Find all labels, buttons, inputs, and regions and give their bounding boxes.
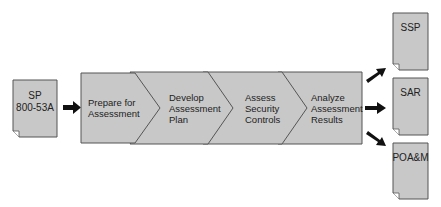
step-2-line-2: Assessment xyxy=(169,103,221,114)
output-poam-label: POA&M xyxy=(391,152,430,164)
step-4-line-1: Analyze xyxy=(311,92,363,103)
step-4-line-2: Assessment xyxy=(311,103,363,114)
input-document-label: SP 800-53A xyxy=(13,90,57,114)
step-analyze-label: Analyze Assessment Results xyxy=(311,92,363,125)
arrow-right-icon xyxy=(63,101,81,114)
arrow-right-icon xyxy=(365,102,386,114)
step-3-line-1: Assess xyxy=(245,92,280,103)
step-2-line-1: Develop xyxy=(169,92,221,103)
output-ssp-label: SSP xyxy=(393,22,428,34)
step-4-line-3: Results xyxy=(311,114,363,125)
output-sar-label: SAR xyxy=(393,87,428,99)
step-2-line-3: Plan xyxy=(169,114,221,125)
arrow-up-right-icon xyxy=(366,68,386,83)
step-assess-label: Assess Security Controls xyxy=(245,92,280,125)
input-doc-line-1: SP xyxy=(13,90,57,102)
arrow-down-right-icon xyxy=(366,131,386,146)
step-3-line-2: Security xyxy=(245,103,280,114)
step-prepare-label: Prepare for Assessment xyxy=(88,97,140,119)
step-develop-label: Develop Assessment Plan xyxy=(169,92,221,125)
step-3-line-3: Controls xyxy=(245,114,280,125)
step-1-line-2: Assessment xyxy=(88,108,140,119)
step-1-line-1: Prepare for xyxy=(88,97,140,108)
input-doc-line-2: 800-53A xyxy=(13,102,57,114)
